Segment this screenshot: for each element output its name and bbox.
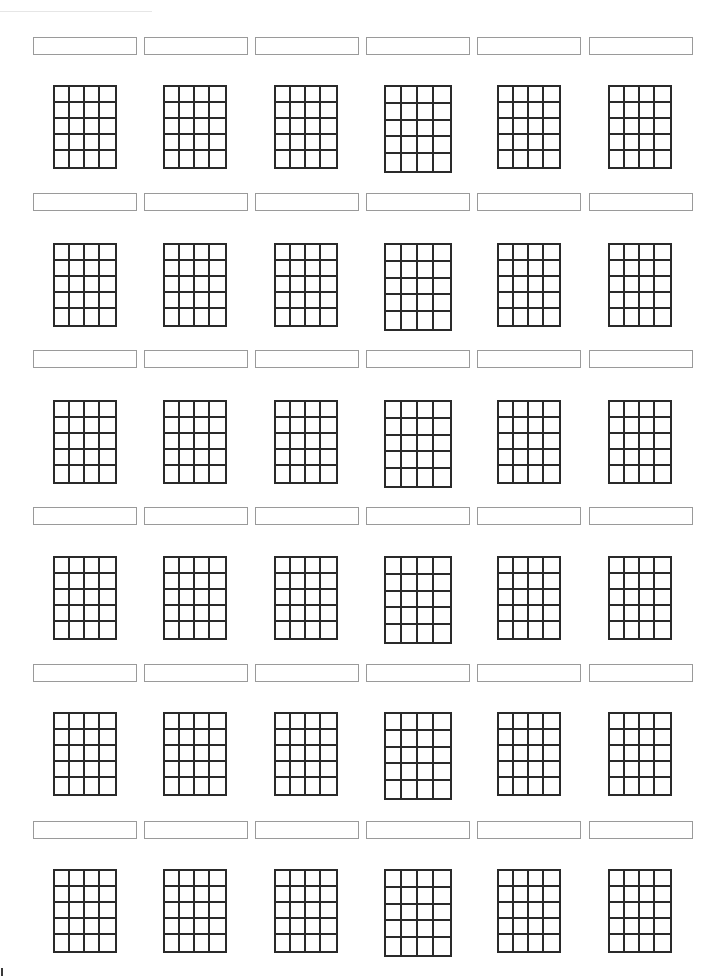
chord-name-field[interactable] xyxy=(33,821,137,839)
chord-name-field[interactable] xyxy=(477,507,581,525)
fret-cell xyxy=(418,279,434,296)
chord-sheet xyxy=(0,0,709,979)
fret-cell xyxy=(434,419,450,436)
fret-cell xyxy=(180,434,195,450)
chord-name-field[interactable] xyxy=(589,350,693,368)
chord-name-field[interactable] xyxy=(144,350,248,368)
chord-name-field[interactable] xyxy=(33,193,137,211)
fret-cell xyxy=(210,778,225,794)
chord-diagram xyxy=(608,712,672,796)
chord-name-field[interactable] xyxy=(144,507,248,525)
chord-diagram xyxy=(163,85,227,169)
chord-name-field[interactable] xyxy=(144,664,248,682)
chord-name-field[interactable] xyxy=(33,664,137,682)
fret-cell xyxy=(306,935,321,951)
chord-diagram xyxy=(384,869,452,957)
fret-cell xyxy=(434,921,450,938)
fret-cell xyxy=(625,87,640,103)
chord-name-field[interactable] xyxy=(477,821,581,839)
fret-cell xyxy=(625,119,640,135)
fret-cell xyxy=(306,261,321,277)
fret-cell xyxy=(529,606,544,622)
chord-name-field[interactable] xyxy=(366,350,470,368)
chord-name-field[interactable] xyxy=(589,821,693,839)
fret-cell xyxy=(195,277,210,293)
chord-name-field[interactable] xyxy=(255,507,359,525)
fret-cell xyxy=(321,919,336,935)
fret-cell xyxy=(625,450,640,466)
chord-name-field[interactable] xyxy=(255,37,359,55)
chord-name-field[interactable] xyxy=(366,193,470,211)
chord-name-field[interactable] xyxy=(366,821,470,839)
fret-cell xyxy=(321,293,336,309)
fret-cell xyxy=(610,135,625,151)
chord-name-field[interactable] xyxy=(33,507,137,525)
chord-name-field[interactable] xyxy=(366,37,470,55)
fret-cell xyxy=(544,903,559,919)
edge-mark xyxy=(1,968,3,976)
fret-cell xyxy=(291,434,306,450)
fret-cell xyxy=(165,261,180,277)
fret-cell xyxy=(55,887,70,903)
fret-cell xyxy=(180,293,195,309)
chord-name-field[interactable] xyxy=(33,350,137,368)
chord-name-field[interactable] xyxy=(33,37,137,55)
chord-name-field[interactable] xyxy=(477,664,581,682)
chord-name-field[interactable] xyxy=(255,350,359,368)
fret-cell xyxy=(514,762,529,778)
fret-cell xyxy=(291,418,306,434)
fret-cell xyxy=(640,277,655,293)
fret-cell xyxy=(85,309,100,325)
fret-cell xyxy=(100,418,115,434)
fret-cell xyxy=(195,887,210,903)
chord-name-field[interactable] xyxy=(477,37,581,55)
chord-name-field[interactable] xyxy=(589,664,693,682)
fret-cell xyxy=(55,418,70,434)
fret-cell xyxy=(610,87,625,103)
chord-name-field[interactable] xyxy=(589,507,693,525)
chord-name-field[interactable] xyxy=(255,193,359,211)
fret-cell xyxy=(100,746,115,762)
fret-cell xyxy=(386,419,402,436)
fret-cell xyxy=(85,434,100,450)
fret-cell xyxy=(610,778,625,794)
chord-name-field[interactable] xyxy=(589,37,693,55)
fret-cell xyxy=(85,714,100,730)
fret-cell xyxy=(180,730,195,746)
fret-cell xyxy=(291,261,306,277)
fret-cell xyxy=(529,887,544,903)
chord-name-field[interactable] xyxy=(366,507,470,525)
chord-name-field[interactable] xyxy=(477,193,581,211)
chord-name-field[interactable] xyxy=(477,350,581,368)
fret-cell xyxy=(210,119,225,135)
fret-cell xyxy=(321,730,336,746)
fret-cell xyxy=(55,450,70,466)
fret-cell xyxy=(386,905,402,922)
fret-cell xyxy=(402,104,418,121)
fret-cell xyxy=(640,746,655,762)
fret-cell xyxy=(100,450,115,466)
fret-cell xyxy=(544,919,559,935)
fret-cell xyxy=(291,466,306,482)
chord-name-field[interactable] xyxy=(144,37,248,55)
fret-cell xyxy=(529,935,544,951)
chord-name-field[interactable] xyxy=(144,193,248,211)
fret-cell xyxy=(210,103,225,119)
chord-name-field[interactable] xyxy=(255,821,359,839)
chord-name-field[interactable] xyxy=(589,193,693,211)
chord-diagram xyxy=(608,869,672,953)
fret-cell xyxy=(544,151,559,167)
chord-diagram xyxy=(384,556,452,644)
fret-cell xyxy=(276,402,291,418)
chord-name-field[interactable] xyxy=(255,664,359,682)
fret-cell xyxy=(514,714,529,730)
fret-cell xyxy=(321,903,336,919)
chord-name-field[interactable] xyxy=(366,664,470,682)
fret-cell xyxy=(55,558,70,574)
fret-cell xyxy=(306,622,321,638)
fret-cell xyxy=(100,402,115,418)
chord-name-field[interactable] xyxy=(144,821,248,839)
fret-cell xyxy=(165,103,180,119)
fret-cell xyxy=(210,450,225,466)
fret-cell xyxy=(529,903,544,919)
